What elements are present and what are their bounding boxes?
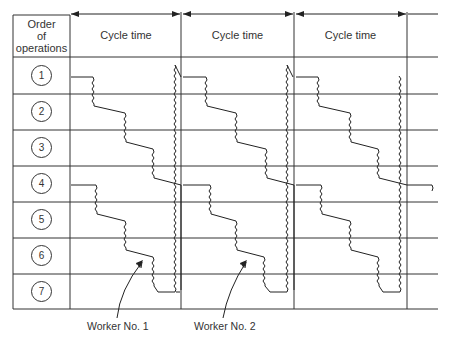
cycle-time-label-3: Cycle time: [294, 29, 407, 41]
worker-1-path-cycle-1: [71, 77, 181, 185]
cycle-time-label-2: Cycle time: [181, 29, 294, 41]
worker-1-label: Worker No. 1: [87, 320, 149, 332]
worker-2-path-cycle-2: [183, 65, 293, 292]
operation-1: 1: [31, 65, 52, 86]
grid: [13, 12, 438, 309]
worker-1-pointer: [117, 262, 142, 318]
worker-2-path-cycle-3: [296, 76, 401, 292]
header-line-2: of: [13, 30, 70, 42]
worker-2-label: Worker No. 2: [194, 320, 256, 332]
order-of-operations-header: Order of operations: [13, 18, 70, 54]
operation-5: 5: [31, 209, 52, 230]
header-line-3: operations: [13, 42, 70, 54]
operation-3: 3: [31, 137, 52, 158]
operation-4: 4: [31, 173, 52, 194]
operation-2: 2: [31, 101, 52, 122]
cycle-time-label-1: Cycle time: [71, 29, 181, 41]
worker-2-path-cycle-1: [71, 65, 181, 292]
operation-6: 6: [31, 245, 52, 266]
worker-paths: [71, 65, 433, 292]
header-line-1: Order: [13, 18, 70, 30]
worker-1-path-cycle-2: [183, 77, 294, 185]
worker-2-pointer: [223, 262, 246, 318]
operation-7: 7: [31, 281, 52, 302]
